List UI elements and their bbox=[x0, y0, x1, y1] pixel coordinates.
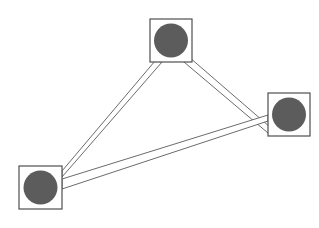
edge-layer bbox=[62, 57, 270, 189]
node-top-circle-icon bbox=[154, 24, 188, 58]
node-bottom-left-circle-icon bbox=[24, 171, 58, 205]
diagram-canvas bbox=[0, 0, 319, 228]
node-top[interactable] bbox=[150, 19, 192, 62]
node-bottom-left[interactable] bbox=[19, 166, 62, 209]
graph-svg bbox=[0, 0, 319, 228]
node-right[interactable] bbox=[268, 93, 310, 136]
edge-bottomleft-right[interactable] bbox=[62, 115, 268, 189]
node-right-circle-icon bbox=[272, 98, 306, 132]
